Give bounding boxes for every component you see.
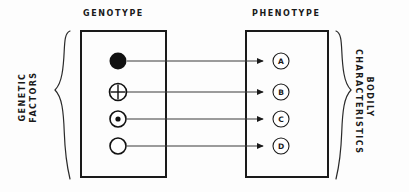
diagram-canvas: GENOTYPE PHENOTYPE GENETIC FACTORS BODIL… xyxy=(0,0,409,192)
phenotype-trait-c-label: C xyxy=(278,115,284,124)
phenotype-trait-b: B xyxy=(273,84,289,100)
genotype-box xyxy=(81,31,166,177)
left-brace-icon xyxy=(55,31,70,179)
phenotype-trait-a: A xyxy=(273,53,289,69)
phenotype-trait-a-label: A xyxy=(278,57,284,66)
circle-with-dot-icon xyxy=(110,111,126,127)
empty-circle-icon xyxy=(110,138,126,154)
filled-circle-icon xyxy=(110,53,127,70)
genotype-to-phenotype-arrows xyxy=(127,61,263,146)
diagram-graphics: A B C D xyxy=(0,0,409,192)
right-brace-icon xyxy=(336,31,351,179)
phenotype-trait-d: D xyxy=(273,138,289,154)
phenotype-trait-b-label: B xyxy=(278,88,284,97)
phenotype-trait-group: A B C D xyxy=(273,53,289,154)
phenotype-trait-d-label: D xyxy=(278,142,284,151)
phenotype-box xyxy=(246,31,328,177)
genotype-symbol-group xyxy=(110,53,127,155)
circle-with-cross-icon xyxy=(110,84,127,101)
phenotype-trait-c: C xyxy=(273,111,289,127)
